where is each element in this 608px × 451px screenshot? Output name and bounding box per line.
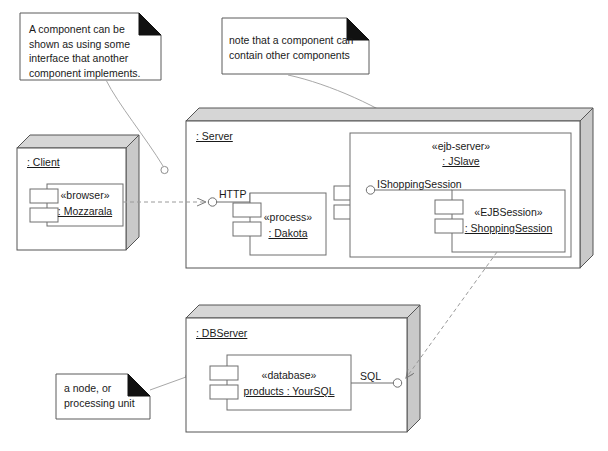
node-jslave-stereotype: «ejb-server» (391, 140, 531, 153)
component-mozzarala-name: : Mozzarala (47, 205, 123, 218)
uml-deployment-diagram: A component can be shown as using some i… (0, 0, 608, 451)
component-shoppingsession-name: : ShoppingSession (452, 222, 565, 235)
component-yoursql-stereotype: «database» (227, 369, 351, 382)
node-jslave-label: : JSlave (391, 155, 531, 168)
node-server-label: : Server (196, 130, 233, 143)
note-node-text: a node, or processing unit (64, 381, 152, 410)
note-contains-text: note that a component can contain other … (229, 33, 369, 62)
component-dakota-name: : Dakota (250, 227, 326, 240)
component-shoppingsession[interactable] (435, 190, 565, 252)
interface-sql-label: SQL (360, 370, 381, 383)
node-dbserver-label: : DBServer (196, 327, 247, 340)
component-yoursql-name: products : YourSQL (227, 385, 351, 398)
note-node-connector (150, 377, 186, 390)
component-yoursql[interactable] (210, 355, 351, 410)
interface-ishoppingsession-label: IShoppingSession (377, 178, 462, 191)
node-client-label: : Client (27, 156, 60, 169)
interface-http-label: HTTP (219, 188, 246, 201)
component-dakota-stereotype: «process» (250, 211, 326, 224)
note-interface-anchor (161, 166, 168, 173)
note-interface-text: A component can be shown as using some i… (29, 22, 155, 80)
component-mozzarala-stereotype: «browser» (47, 189, 123, 202)
component-shoppingsession-stereotype: «EJBSession» (452, 206, 565, 219)
